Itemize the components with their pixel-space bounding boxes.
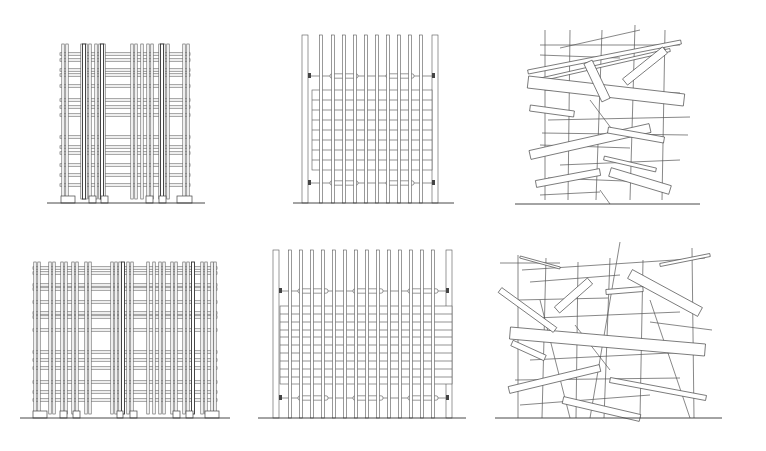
vertical-slat bbox=[333, 250, 336, 418]
thin-stick bbox=[650, 300, 690, 418]
footing-block bbox=[117, 411, 123, 418]
vertical-post bbox=[127, 262, 129, 414]
footing-block bbox=[205, 411, 219, 418]
horizontal-beam bbox=[60, 74, 190, 76]
vertical-post bbox=[147, 262, 149, 414]
vertical-slat bbox=[376, 35, 379, 203]
band-node bbox=[308, 73, 311, 78]
vertical-post bbox=[151, 44, 153, 199]
vertical-post bbox=[131, 44, 133, 199]
footing-block bbox=[60, 411, 67, 418]
band-node bbox=[279, 288, 282, 293]
horizontal-beam bbox=[60, 53, 190, 55]
horizontal-beam bbox=[60, 174, 190, 176]
vertical-post bbox=[201, 262, 203, 414]
vertical-post bbox=[183, 262, 185, 414]
footing-block bbox=[173, 411, 180, 418]
footing-block bbox=[101, 196, 108, 203]
main-column bbox=[83, 44, 86, 199]
elevation-grid-tower-small bbox=[47, 44, 205, 203]
vertical-post bbox=[171, 262, 173, 414]
vertical-post bbox=[147, 44, 149, 199]
band-node bbox=[279, 395, 282, 400]
elevation-grid-tower-wide bbox=[20, 262, 230, 418]
horizontal-beam bbox=[60, 114, 190, 116]
vertical-slat bbox=[332, 35, 335, 203]
horizontal-beam bbox=[60, 99, 190, 101]
timber-plank bbox=[511, 340, 546, 360]
vertical-slat bbox=[399, 250, 402, 418]
vertical-slat bbox=[355, 250, 358, 418]
band-node bbox=[432, 180, 435, 185]
main-column bbox=[161, 44, 164, 199]
vertical-slat bbox=[377, 250, 380, 418]
vertical-post bbox=[141, 44, 143, 199]
timber-plank bbox=[529, 124, 651, 160]
timber-plank bbox=[606, 287, 643, 295]
thin-stick bbox=[530, 275, 620, 282]
band-node bbox=[308, 180, 311, 185]
band-node bbox=[446, 395, 449, 400]
vertical-slat bbox=[421, 250, 424, 418]
vertical-post bbox=[89, 44, 91, 199]
vertical-post bbox=[175, 262, 177, 414]
vertical-slat bbox=[343, 35, 346, 203]
timber-plank bbox=[554, 278, 592, 313]
horizontal-beam bbox=[60, 69, 190, 71]
footing-block bbox=[177, 196, 192, 203]
vertical-post bbox=[66, 44, 68, 199]
main-column bbox=[101, 44, 104, 199]
vertical-post bbox=[76, 262, 78, 414]
footing-block bbox=[146, 196, 153, 203]
timber-plank bbox=[530, 105, 575, 117]
vertical-post bbox=[65, 262, 67, 414]
vertical-slat bbox=[300, 250, 303, 418]
band-node bbox=[446, 288, 449, 293]
timber-plank bbox=[520, 256, 561, 269]
vertical-slat bbox=[365, 35, 368, 203]
vertical-post bbox=[159, 262, 161, 414]
vertical-post bbox=[85, 262, 87, 414]
band-node bbox=[432, 73, 435, 78]
vertical-slat bbox=[387, 35, 390, 203]
vertical-slat bbox=[409, 35, 412, 203]
vertical-post bbox=[53, 262, 55, 414]
horizontal-beam bbox=[60, 85, 190, 87]
vertical-post bbox=[95, 44, 97, 199]
vertical-post bbox=[61, 262, 63, 414]
timber-plank bbox=[498, 288, 557, 333]
vertical-post bbox=[111, 262, 113, 414]
footing-block bbox=[89, 196, 96, 203]
horizontal-beam bbox=[60, 184, 190, 186]
vertical-slat bbox=[344, 250, 347, 418]
thin-stick bbox=[540, 192, 600, 195]
vertical-post bbox=[135, 44, 137, 199]
vertical-slat bbox=[320, 35, 323, 203]
vertical-slat bbox=[432, 250, 435, 418]
vertical-post bbox=[49, 262, 51, 414]
vertical-post bbox=[38, 262, 40, 414]
footing-block bbox=[73, 411, 80, 418]
vertical-post bbox=[214, 262, 216, 414]
vertical-post bbox=[183, 44, 185, 199]
horizontal-beam bbox=[60, 106, 190, 108]
horizontal-beam bbox=[60, 136, 190, 138]
elevation-random-sticks-wide bbox=[495, 242, 722, 421]
vertical-post bbox=[211, 262, 213, 414]
vertical-slat bbox=[410, 250, 413, 418]
timber-plank bbox=[628, 270, 703, 317]
frame-post bbox=[302, 35, 308, 203]
vertical-slat bbox=[322, 250, 325, 418]
footing-block bbox=[186, 411, 193, 418]
vertical-slat bbox=[311, 250, 314, 418]
vertical-slat bbox=[398, 35, 401, 203]
footing-block bbox=[130, 411, 137, 418]
elevation-slat-screen-small bbox=[293, 35, 454, 203]
horizontal-beam bbox=[60, 152, 190, 154]
vertical-slat bbox=[388, 250, 391, 418]
frame-post bbox=[273, 250, 279, 418]
footing-block bbox=[61, 196, 75, 203]
thin-stick bbox=[600, 190, 610, 204]
main-column bbox=[192, 262, 195, 414]
vertical-post bbox=[115, 262, 117, 414]
